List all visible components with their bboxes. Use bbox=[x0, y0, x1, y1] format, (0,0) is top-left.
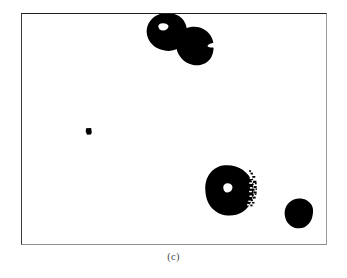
blob-large-ring bbox=[203, 163, 257, 221]
blob-small-dot bbox=[86, 128, 92, 135]
figure-root: (c) bbox=[0, 0, 347, 278]
figure-caption: (c) bbox=[0, 250, 347, 263]
binary-segmentation-panel bbox=[21, 13, 327, 245]
blob-top-right-notched bbox=[176, 27, 216, 66]
blob-bottom-right bbox=[285, 199, 313, 229]
blob-canvas bbox=[22, 14, 326, 244]
